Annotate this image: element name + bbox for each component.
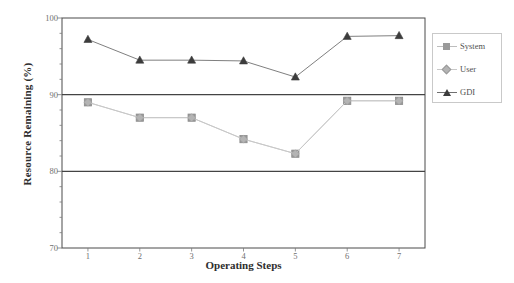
- series-line: [88, 101, 399, 154]
- triangle-marker: [343, 32, 351, 39]
- legend-item-user[interactable]: User: [437, 63, 501, 75]
- legend-sample-user: [437, 64, 457, 75]
- plot-frame: [62, 18, 425, 248]
- square-marker-icon: [443, 43, 450, 50]
- legend-sample-system: [437, 41, 457, 52]
- series-user: [84, 97, 403, 158]
- legend-item-system[interactable]: System: [437, 40, 501, 52]
- triangle-marker: [240, 57, 248, 64]
- triangle-marker: [136, 56, 144, 63]
- chart-legend: System User GDI: [432, 33, 502, 103]
- series-line: [88, 101, 399, 154]
- legend-label-system: System: [457, 41, 485, 51]
- triangle-marker-icon: [443, 89, 451, 96]
- series-system: [84, 97, 402, 157]
- diamond-marker-icon: [442, 64, 452, 74]
- series-gdi: [84, 31, 403, 80]
- legend-item-gdi[interactable]: GDI: [437, 86, 501, 98]
- triangle-marker: [188, 56, 196, 63]
- x-axis-title: Operating Steps: [62, 259, 425, 271]
- chart-figure: Resource Remaining (%) 708090100 1234567…: [0, 0, 514, 283]
- legend-label-user: User: [457, 64, 476, 74]
- legend-label-gdi: GDI: [457, 87, 475, 97]
- triangle-marker: [395, 31, 403, 38]
- legend-sample-gdi: [437, 87, 457, 98]
- triangle-marker: [84, 35, 92, 42]
